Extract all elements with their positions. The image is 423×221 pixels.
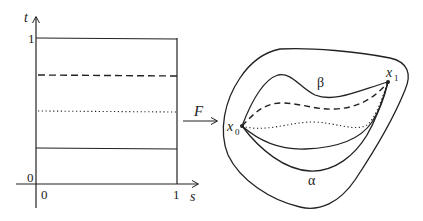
point-x1 [386,80,390,84]
beta-label: β [317,75,324,90]
space-boundary [223,49,408,209]
x1-base: x [385,65,393,80]
path-lower-solid [242,82,388,149]
map-label: F [193,103,204,119]
line-t1 [36,38,177,39]
t-tick-0: 0 [27,170,34,185]
x0-base: x [226,119,234,134]
line-lower-solid [36,148,177,149]
start-point-sub: 0 [235,127,240,137]
s-tick-1: 1 [173,187,180,202]
line-dashed [38,75,177,76]
homotopy-diagram: t 1 0 0 1 s F x 0 x 1 β α [0,0,423,221]
t-axis-label: t [24,10,29,25]
map-arrow: F [183,103,217,121]
space-panel [223,49,408,209]
s-tick-0: 0 [41,187,48,202]
t-tick-1: 1 [28,31,35,46]
unit-square-panel: t 1 0 0 1 s [16,10,198,208]
line-dotted [38,111,177,112]
s-axis-label: s [190,189,196,204]
alpha-label: α [308,173,316,188]
start-point-label: x [226,119,234,134]
point-x0 [240,124,244,128]
end-point-sub: 1 [394,73,399,83]
end-point-label: x [385,65,393,80]
